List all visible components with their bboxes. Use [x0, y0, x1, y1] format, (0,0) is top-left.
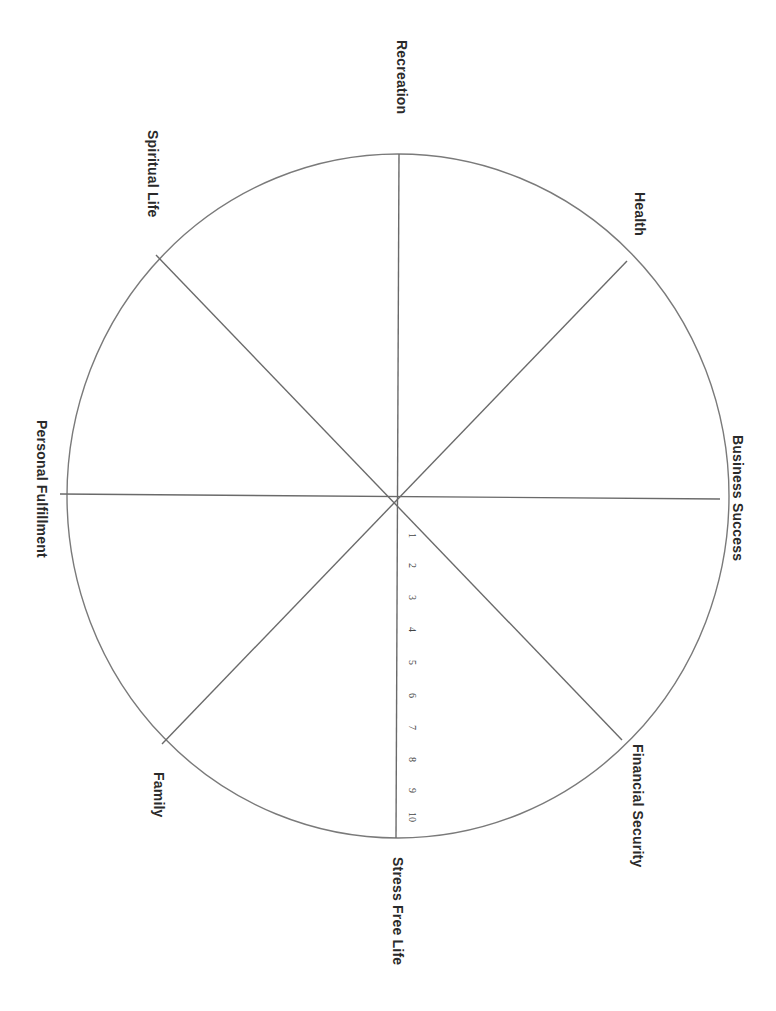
scale-tick-9: 9 — [407, 788, 418, 793]
scale-tick-1: 1 — [407, 533, 418, 538]
scale-tick-2: 2 — [407, 563, 418, 568]
label-spiritual-life: Spiritual Life — [145, 130, 161, 218]
label-stress-free-life: Stress Free Life — [390, 857, 406, 965]
scale-tick-5: 5 — [407, 660, 418, 665]
scale-tick-10: 10 — [407, 812, 418, 822]
label-financial-security: Financial Security — [630, 744, 646, 867]
label-personal-fulfillment: Personal Fulfillment — [34, 420, 50, 558]
label-health: Health — [632, 192, 648, 236]
scale-tick-3: 3 — [407, 595, 418, 600]
label-recreation: Recreation — [394, 40, 410, 114]
scale-tick-6: 6 — [407, 693, 418, 698]
label-family: Family — [151, 772, 167, 818]
scale-tick-7: 7 — [407, 725, 418, 730]
label-business-success: Business Success — [730, 435, 746, 561]
scale-tick-4: 4 — [407, 627, 418, 632]
wheel-diagram — [0, 0, 776, 1011]
scale-tick-8: 8 — [407, 757, 418, 762]
